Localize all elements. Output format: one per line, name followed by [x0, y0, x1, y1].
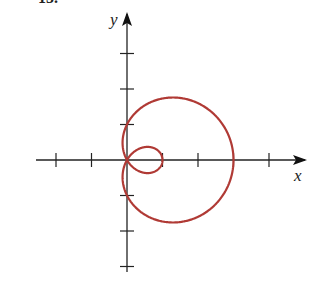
- x-axis-label: x: [294, 166, 302, 186]
- axes: [36, 14, 305, 272]
- polar-graph: [0, 0, 330, 298]
- y-axis-label: y: [110, 10, 118, 30]
